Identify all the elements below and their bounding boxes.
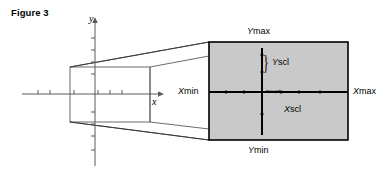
plane-x-axis — [22, 90, 164, 97]
xscl-brace-icon: } — [265, 89, 281, 93]
y-axis-label: y — [89, 14, 93, 24]
figure-3-illustration: Figure 3 y x Ymax Ymin Xmin Xmax } Yscl … — [0, 0, 391, 173]
frustum-edge-top — [70, 42, 209, 67]
frustum-line-top-inner — [150, 56, 209, 67]
plane-y-axis — [91, 17, 98, 166]
xmax-label: Xmax — [353, 87, 376, 96]
xmin-label: Xmin — [178, 87, 199, 96]
xscl-label: Xscl — [284, 105, 301, 114]
x-axis-arrowhead — [158, 91, 164, 96]
x-axis-label: x — [152, 97, 156, 107]
ymin-label: Ymin — [248, 146, 269, 155]
yscl-brace-icon: } — [263, 51, 269, 73]
yscl-label: Yscl — [272, 58, 289, 67]
ymax-label: Ymax — [247, 27, 270, 36]
frustum-line-bottom-inner — [150, 122, 209, 129]
figure-title: Figure 3 — [11, 7, 49, 18]
frustum-edge-bottom — [70, 122, 209, 140]
